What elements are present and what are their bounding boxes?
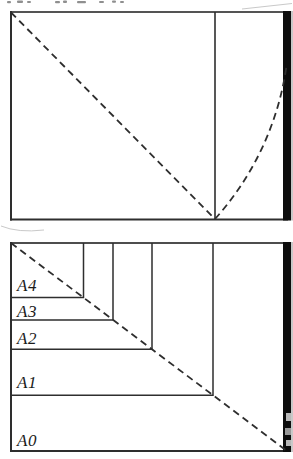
scan-speckle bbox=[286, 440, 291, 446]
label-a2: A2 bbox=[17, 330, 37, 347]
label-a0: A0 bbox=[17, 432, 37, 449]
scan-speckle bbox=[286, 413, 291, 421]
a-series-subdivision-figure bbox=[10, 242, 293, 452]
figure1-right-edge-bar bbox=[283, 11, 291, 221]
figure1-square-diagonal-dashed bbox=[11, 13, 215, 220]
label-a1: A1 bbox=[17, 374, 37, 391]
label-a3: A3 bbox=[17, 303, 37, 320]
scan-speckle bbox=[285, 428, 291, 435]
label-a4: A4 bbox=[17, 277, 37, 294]
figure2-common-diagonal-dashed bbox=[11, 243, 287, 451]
cropped-text-remnant bbox=[7, 1, 292, 10]
figure1-compass-arc-dashed bbox=[215, 66, 287, 219]
scanned-book-page: A4 A3 A2 A1 A0 bbox=[0, 0, 293, 459]
figure1-edge-fade bbox=[291, 11, 293, 221]
page-edge-hairline bbox=[242, 4, 292, 10]
sqrt2-construction-figure bbox=[1, 11, 293, 231]
scan-smudge bbox=[1, 226, 44, 231]
diagram-canvas bbox=[0, 0, 293, 459]
figure2-edge-fade bbox=[291, 242, 293, 452]
